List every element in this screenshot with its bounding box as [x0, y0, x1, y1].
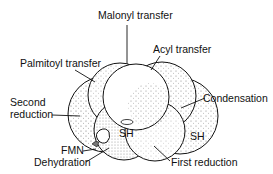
label-sh-right: SH: [190, 131, 205, 142]
label-condensation: Condensation: [203, 93, 268, 104]
label-dehydration: Dehydration: [34, 157, 91, 168]
label-palmitoyl-transfer: Palmitoyl transfer: [20, 58, 101, 69]
label-malonyl-transfer: Malonyl transfer: [98, 10, 173, 21]
label-fmn: FMN: [61, 145, 84, 156]
label-first-reduction: First reduction: [171, 157, 238, 168]
enzyme-complex-diagram: [0, 0, 273, 174]
label-second-reduction-line1: Second: [10, 97, 46, 108]
label-second-reduction-line2: reduction: [10, 109, 53, 120]
label-sh-left: SH: [119, 128, 134, 139]
label-acyl-transfer: Acyl transfer: [153, 44, 211, 55]
fmn-prosthetic-group: [96, 129, 109, 143]
